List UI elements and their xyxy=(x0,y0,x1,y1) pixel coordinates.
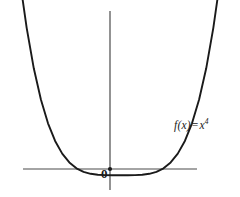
quartic-function-figure: 0 f(x)=x4 xyxy=(0,0,240,197)
function-exponent-text: 4 xyxy=(205,117,209,126)
quartic-curve xyxy=(20,0,221,175)
plot-canvas xyxy=(0,0,240,197)
function-equation-label: f(x)=x4 xyxy=(174,119,209,131)
function-name-text: f(x) xyxy=(174,119,191,131)
origin-point-marker xyxy=(108,167,112,171)
origin-label: 0 xyxy=(101,167,108,180)
